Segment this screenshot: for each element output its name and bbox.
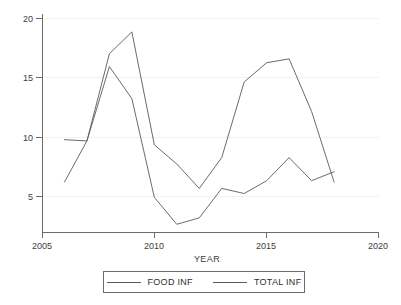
legend-line-swatch-icon <box>107 282 141 283</box>
y-axis: 20 15 10 5 <box>23 14 42 233</box>
legend-label-food-inf: FOOD INF <box>148 277 193 287</box>
legend-entry-food-inf: FOOD INF <box>107 277 193 287</box>
x-tick-label-2020: 2020 <box>368 241 388 251</box>
y-tick-label-20: 20 <box>23 14 33 24</box>
line-chart-plot: 20 15 10 5 2005 2010 2015 2020 YEAR <box>0 0 401 305</box>
chart-legend: FOOD INF TOTAL INF <box>103 271 305 293</box>
chart-container: 20 15 10 5 2005 2010 2015 2020 YEAR FOOD… <box>0 0 401 305</box>
legend-label-total-inf: TOTAL INF <box>254 277 302 287</box>
series-group <box>64 32 334 224</box>
y-tick-label-15: 15 <box>23 73 33 83</box>
y-tick-label-10: 10 <box>23 133 33 143</box>
x-axis-title: YEAR <box>194 254 220 264</box>
legend-line-swatch-icon <box>213 282 247 283</box>
x-tick-label-2010: 2010 <box>144 241 164 251</box>
x-tick-label-2005: 2005 <box>32 241 52 251</box>
x-axis: 2005 2010 2015 2020 YEAR <box>32 232 388 264</box>
series-path-total-inf <box>64 32 334 188</box>
x-tick-label-2015: 2015 <box>256 241 276 251</box>
y-tick-label-5: 5 <box>28 192 33 202</box>
legend-entry-total-inf: TOTAL INF <box>213 277 302 287</box>
series-path-food-inf <box>64 67 334 225</box>
gridlines <box>42 18 379 196</box>
